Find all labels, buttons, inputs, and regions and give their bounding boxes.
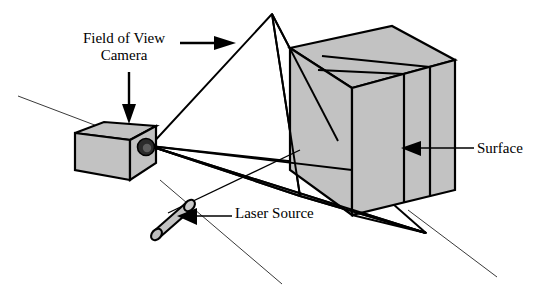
fov-arrow-head-icon [214, 36, 236, 50]
ground-line-lower-right [160, 180, 282, 284]
camera-arrow [122, 72, 136, 124]
label-surface: Surface [477, 140, 523, 157]
fov-arrow [180, 36, 236, 50]
label-camera-text: Camera [70, 47, 178, 64]
camera-lens-inner-icon [143, 144, 151, 152]
camera-front-face [75, 133, 130, 180]
ground-line-right-tail [408, 210, 497, 277]
camera-object [75, 122, 156, 180]
camera-arrow-head-icon [122, 104, 136, 124]
diagram-canvas: Field of View Camera Surface Laser Sourc… [0, 0, 538, 289]
label-laser-source: Laser Source [235, 205, 314, 222]
label-field-of-view-camera: Field of View Camera [70, 30, 178, 64]
label-field-of-view-text: Field of View [83, 30, 165, 46]
surface-object [290, 26, 455, 215]
